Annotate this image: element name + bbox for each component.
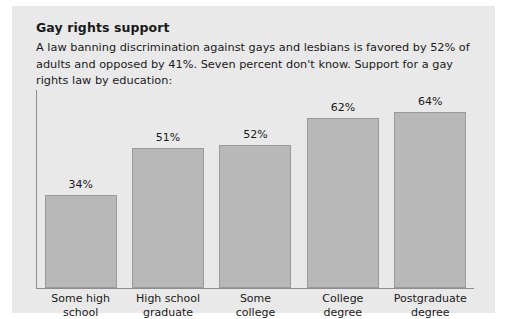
x-tick-label-line: college xyxy=(212,306,299,319)
bar-column: 52% xyxy=(212,90,299,288)
x-tick-label-line: Some xyxy=(212,292,299,306)
bar-value-label: 51% xyxy=(156,131,180,144)
chart-subtitle: A law banning discrimination against gay… xyxy=(36,40,476,90)
chart-card: Gay rights support A law banning discrim… xyxy=(12,6,495,313)
bar-value-label: 62% xyxy=(331,101,355,114)
bar xyxy=(132,148,204,288)
x-tick-label-line: school xyxy=(37,306,124,319)
x-tick-label-line: College xyxy=(299,292,386,306)
x-axis-tick-labels: Some high school High school graduate So… xyxy=(37,292,474,319)
bar xyxy=(45,195,117,288)
x-tick-label-line: Postgraduate xyxy=(387,292,474,306)
x-tick-label-line: degree xyxy=(387,306,474,319)
chart-title: Gay rights support xyxy=(36,20,170,35)
x-tick-label: Some college xyxy=(212,292,299,319)
bar xyxy=(307,118,379,288)
bar-column: 34% xyxy=(37,90,124,288)
bar-column: 51% xyxy=(124,90,211,288)
bar-column: 62% xyxy=(299,90,386,288)
x-tick-label: Postgraduate degree xyxy=(387,292,474,319)
bar-column: 64% xyxy=(387,90,474,288)
bar xyxy=(219,145,291,288)
x-tick-label-line: High school xyxy=(124,292,211,306)
bar-value-label: 64% xyxy=(418,95,442,108)
x-tick-label: High school graduate xyxy=(124,292,211,319)
bar-group: 34% 51% 52% 62% 64% xyxy=(37,90,474,288)
x-tick-label-line: degree xyxy=(299,306,386,319)
bar-value-label: 52% xyxy=(243,128,267,141)
x-tick-label-line: Some high xyxy=(37,292,124,306)
bar xyxy=(394,112,466,288)
x-tick-label-line: graduate xyxy=(124,306,211,319)
x-tick-label: Some high school xyxy=(37,292,124,319)
x-tick-label: College degree xyxy=(299,292,386,319)
bar-value-label: 34% xyxy=(68,178,92,191)
chart-page: Gay rights support A law banning discrim… xyxy=(0,0,507,319)
